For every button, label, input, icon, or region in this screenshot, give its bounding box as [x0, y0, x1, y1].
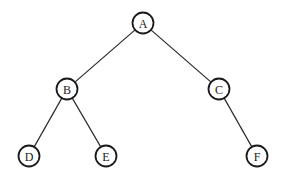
- node-label: A: [139, 17, 148, 31]
- edge-b-d: [34, 98, 62, 147]
- tree-node-d: D: [19, 146, 40, 167]
- edge-a-b: [75, 30, 135, 82]
- tree-node-a: A: [133, 13, 154, 34]
- node-label: E: [102, 150, 109, 164]
- node-label: B: [63, 83, 71, 97]
- node-label: C: [215, 83, 223, 97]
- tree-node-e: E: [96, 146, 117, 167]
- edge-a-c: [151, 30, 211, 82]
- nodes-group: ABCDEF: [19, 13, 268, 167]
- node-label: F: [254, 150, 261, 164]
- tree-node-b: B: [57, 79, 78, 100]
- edge-b-e: [72, 98, 100, 147]
- tree-node-f: F: [247, 146, 268, 167]
- tree-node-c: C: [209, 79, 230, 100]
- edge-c-f: [224, 98, 252, 147]
- tree-diagram: ABCDEF: [0, 0, 285, 178]
- node-label: D: [25, 150, 34, 164]
